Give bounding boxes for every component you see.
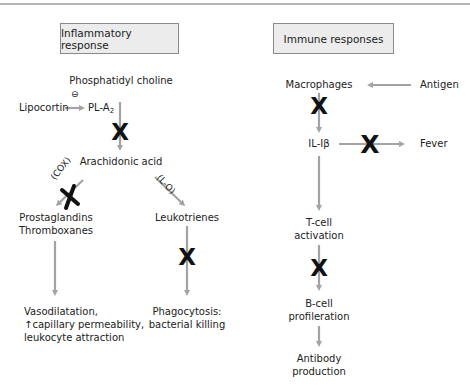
inhibit-minus-icon: ⊖ [71,88,79,101]
node-pla2: PL-A2 [88,101,114,118]
block-x-icon-tcell: X [310,255,328,281]
tcell-line-1: T-cell [294,216,344,229]
node-antibody-production: Antibody production [292,352,346,378]
bcell-line-2: profileration [289,310,350,323]
node-arachidonic-acid: Arachidonic acid [80,155,163,168]
block-x-icon-pla2: X [111,119,129,145]
node-fever: Fever [420,137,448,150]
antibody-line-2: production [292,365,346,378]
vaso-line-3: leukocyte attraction [24,331,144,344]
phago-line-1: Phagocytosis: [149,305,226,318]
prostaglandins-label: Prostaglandins [19,211,93,224]
vaso-line-2: ↑capillary permeability, [24,318,144,331]
node-antigen: Antigen [420,78,459,91]
pla2-label: PL-A [88,102,110,113]
node-prostaglandins-thromboxanes: Prostaglandins Thromboxanes [19,211,93,237]
node-phagocytosis: Phagocytosis: bacterial killing [149,305,226,331]
node-vasodilatation: Vasodilatation, ↑capillary permeability,… [24,305,144,344]
thromboxanes-label: Thromboxanes [19,224,93,237]
node-lipocortin: Lipocortin [19,101,69,114]
node-il1b: IL-Iβ [308,137,329,150]
node-phosphatidyl-choline: Phosphatidyl choline [69,74,172,87]
node-macrophages: Macrophages [286,78,353,91]
node-bcell-proliferation: B-cell profileration [289,297,350,323]
block-x-icon-leukotrienes: X [178,244,196,270]
antibody-line-1: Antibody [292,352,346,365]
block-x-icon-macrophages: X [310,93,328,119]
vaso-line-1: Vasodilatation, [24,305,144,318]
pla2-subscript: 2 [110,107,114,115]
node-tcell-activation: T-cell activation [294,216,344,242]
tcell-line-2: activation [294,229,344,242]
node-leukotrienes: Leukotrienes [155,211,219,224]
phago-line-2: bacterial killing [149,318,226,331]
block-x-icon-fever: X [360,130,379,159]
bcell-line-1: B-cell [289,297,350,310]
